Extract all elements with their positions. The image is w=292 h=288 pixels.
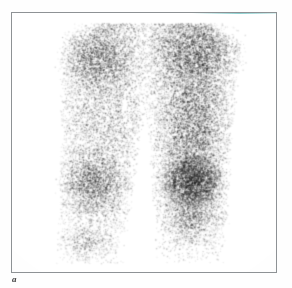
scan-region-description: bilateral lower extremities: [0, 0, 1, 1]
figure-root: a bilateral lower extremities anterior r…: [0, 0, 292, 288]
bone-scan-image: [12, 13, 276, 272]
finding-diffuse-uptake: bilateral femoral and tibial shafts: [0, 0, 1, 1]
finding-focal-uptake: right proximal tibia / knee region: [0, 0, 1, 1]
scan-view-description: anterior: [0, 0, 1, 1]
scintigram-plate: [11, 12, 277, 273]
figure-panel-label: a: [12, 274, 17, 284]
